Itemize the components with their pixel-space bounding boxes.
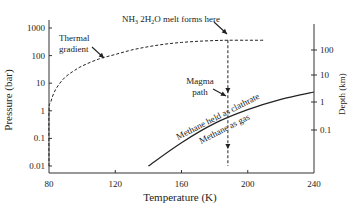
y2-tick-label: 10 — [320, 70, 330, 80]
y-tick-label: 100 — [32, 51, 46, 61]
y-tick-label: 1 — [41, 106, 46, 116]
magma-arrowhead-lower — [225, 144, 230, 149]
chart-root: 801201602002400.010.111010010000.1110100… — [0, 0, 357, 213]
y2-tick-label: 100 — [320, 45, 334, 55]
x-axis-label: Temperature (K) — [143, 191, 217, 204]
y-tick-label: 1000 — [27, 23, 46, 33]
y-tick-label: 0.1 — [34, 133, 45, 143]
labels-layer: Temperature (K) Pressure (bar) Depth (km… — [2, 14, 347, 204]
y2-tick-label: 0.1 — [320, 125, 331, 135]
melt-label-part: 2H — [138, 14, 152, 24]
thermal-gradient-label-line2: gradient — [59, 44, 89, 54]
thermal-gradient-label: Thermal — [59, 33, 90, 43]
x-tick-label: 160 — [175, 179, 189, 189]
x-tick-label: 200 — [241, 179, 255, 189]
melt-label-part: NH — [122, 14, 135, 24]
y2-tick-label: 1 — [320, 97, 325, 107]
magma-path-label-line2: path — [192, 87, 208, 97]
y2-axis-label: Depth (km) — [337, 73, 347, 115]
magma-arrowhead-upper — [225, 88, 230, 93]
melt-label-part: O melt forms here — [154, 14, 220, 24]
magma-path-label: Magma — [186, 76, 214, 86]
y-tick-label: 0.01 — [29, 161, 45, 171]
series-layer — [49, 40, 314, 166]
x-tick-label: 120 — [109, 179, 123, 189]
x-tick-label: 240 — [307, 179, 321, 189]
y-tick-label: 10 — [36, 78, 46, 88]
melt-label: NH3 2H2O melt forms here — [122, 14, 220, 25]
y-axis-label: Pressure (bar) — [2, 69, 15, 131]
x-tick-label: 80 — [45, 179, 55, 189]
